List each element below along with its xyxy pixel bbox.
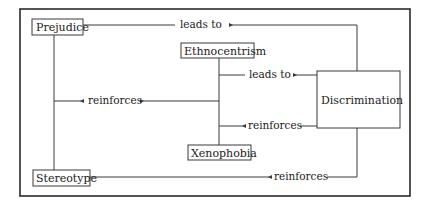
arrow-left-icon xyxy=(80,99,84,103)
node-prejudice: Prejudice xyxy=(32,19,89,35)
node-discrimination: Discrimination xyxy=(317,71,403,128)
node-label: Prejudice xyxy=(36,21,89,34)
concept-diagram: leads to leads to reinforces reinforces … xyxy=(0,0,431,205)
node-label: Ethnocentrism xyxy=(184,45,267,58)
edge-reinforces-bidirectional: reinforces xyxy=(54,94,219,106)
arrow-right-icon xyxy=(229,23,233,27)
edge-label: reinforces xyxy=(88,94,142,106)
edge-discrimination-reinforces-ethnocentrism: reinforces xyxy=(219,119,317,131)
node-ethnocentrism: Ethnocentrism xyxy=(181,43,267,58)
node-label: Discrimination xyxy=(321,94,403,107)
edge-ethnocentrism-leads-to-discrimination: leads to xyxy=(219,68,317,80)
node-stereotype: Stereotype xyxy=(33,170,97,186)
edge-label: reinforces xyxy=(274,170,328,182)
arrow-left-icon xyxy=(268,175,272,179)
arrow-right-icon xyxy=(293,73,297,77)
edge-label: leads to xyxy=(180,18,222,30)
edge-label: leads to xyxy=(249,68,291,80)
edge-label: reinforces xyxy=(248,119,302,131)
node-xenophobia: Xenophobia xyxy=(188,145,257,160)
arrow-left-icon xyxy=(242,124,246,128)
node-label: Stereotype xyxy=(36,172,97,185)
node-label: Xenophobia xyxy=(191,147,257,160)
